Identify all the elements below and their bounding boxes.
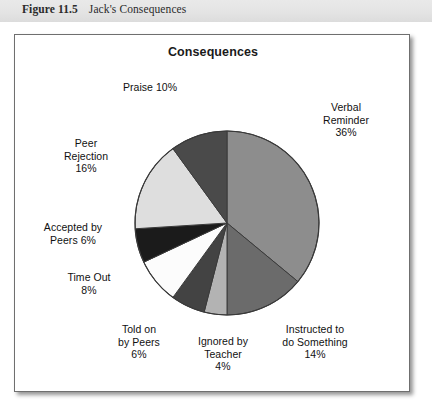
pie-label-told-on-by-peers: Told on by Peers 6% [99, 323, 179, 361]
pie-label-ignored-by-teacher: Ignored by Teacher 4% [175, 335, 271, 373]
pie-label-praise: Praise 10% [107, 81, 193, 94]
figure-number: Figure 11.5 [22, 3, 78, 15]
figure-caption: Figure 11.5Jack's Consequences [22, 3, 186, 15]
pie-label-accepted-by-peers: Accepted by Peers 6% [21, 221, 125, 246]
chart-panel: Consequences Praise 10% Verbal Reminder … [14, 34, 410, 392]
pie-label-time-out: Time Out 8% [49, 271, 129, 296]
pie-label-peer-rejection: Peer Rejection 16% [45, 137, 127, 175]
pie-label-verbal-reminder: Verbal Reminder 36% [303, 101, 389, 139]
pie-label-instructed-to-do-something: Instructed to do Something 14% [259, 323, 371, 361]
figure-title: Jack's Consequences [89, 3, 187, 15]
pie-slice-group [135, 131, 319, 315]
figure-caption-bar: Figure 11.5Jack's Consequences [0, 0, 432, 22]
